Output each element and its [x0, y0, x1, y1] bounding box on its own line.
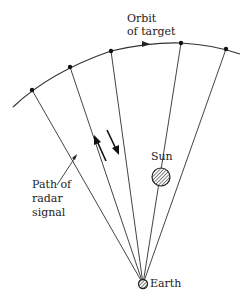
sun-icon [152, 168, 170, 186]
radar-path-5 [143, 49, 226, 284]
sun-label: Sun [151, 150, 173, 163]
signal-direction-arrows [94, 130, 119, 161]
radar-path-4 [143, 43, 181, 284]
path-label-line3: signal [32, 206, 65, 219]
path-label-line2: radar [32, 192, 63, 205]
leader-arrow-icon [72, 154, 77, 160]
path-label-line1: Path of [32, 178, 71, 191]
orbit-label-line1: Orbit [127, 12, 156, 25]
earth-icon [139, 280, 148, 289]
earth-label: Earth [150, 277, 181, 290]
radar-orbit-diagram: Orbit of target Sun Earth Path of radar … [0, 0, 251, 298]
return-arrow-shaft [107, 130, 116, 149]
diagram-canvas [0, 0, 251, 298]
orbit-label-line2: of target [127, 25, 175, 38]
target-orbit-arc [13, 43, 240, 107]
radar-path-3 [111, 51, 143, 284]
radar-signal-paths [32, 43, 226, 284]
orbit-direction-arrow-icon [142, 41, 150, 47]
arrow-down-icon [112, 145, 119, 155]
target-position-dots [30, 41, 228, 92]
arrow-up-icon [94, 135, 101, 145]
